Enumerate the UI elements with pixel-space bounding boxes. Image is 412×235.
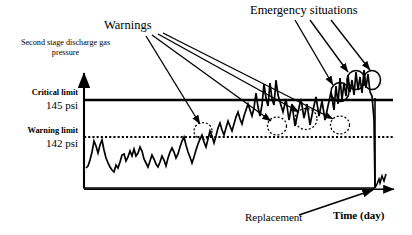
warning-circle-4: [331, 116, 350, 134]
emergency-arrow-1: [295, 20, 333, 85]
emergency-circle-3: [364, 71, 381, 90]
critical-limit-label: Critical limit: [12, 88, 78, 97]
x-axis-label: Time (day): [333, 209, 384, 221]
figure-root: Warnings Emergency situations Second sta…: [0, 0, 412, 235]
y-axis-label: Second stage discharge gas pressure: [13, 38, 118, 59]
emergency-arrow-2: [310, 20, 348, 72]
post-replacement-squiggle: [375, 174, 386, 188]
emergency-annotation-label: Emergency situations: [250, 3, 358, 18]
pressure-series: [86, 80, 280, 172]
y-axis-label-line1: Second stage discharge gas: [21, 38, 110, 47]
warning-limit-value: 142 psi: [10, 137, 78, 149]
critical-limit-value: 145 psi: [12, 99, 78, 111]
chart-canvas: [0, 0, 412, 235]
emergency-arrows: [295, 20, 370, 85]
warnings-annotation-label: Warnings: [104, 18, 152, 33]
emergency-arrow-3: [331, 20, 370, 70]
warning-limit-label: Warning limit: [10, 126, 78, 135]
y-axis-label-line2: pressure: [52, 48, 79, 57]
replacement-annotation-label: Replacement: [245, 211, 302, 223]
warnings-arrow-1: [146, 36, 200, 124]
